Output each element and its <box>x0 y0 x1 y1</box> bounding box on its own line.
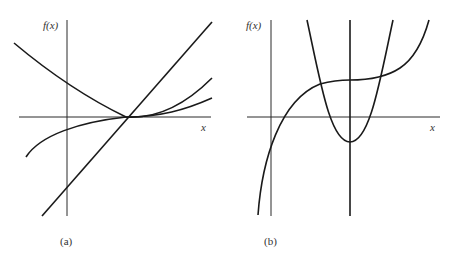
panel-a: f(x) x (a) <box>14 19 212 248</box>
panel-b: f(x) x (b) <box>246 19 440 248</box>
x-axis-label-a: x <box>200 121 206 133</box>
y-axis-label-a: f(x) <box>43 19 59 32</box>
caption-a: (a) <box>60 235 73 248</box>
figure: f(x) x (a) f(x) x (b) <box>0 0 450 259</box>
caption-b: (b) <box>264 235 277 248</box>
parabola-curve-a <box>14 43 212 117</box>
y-axis-label-b: f(x) <box>246 19 262 32</box>
x-axis-label-b: x <box>429 121 435 133</box>
